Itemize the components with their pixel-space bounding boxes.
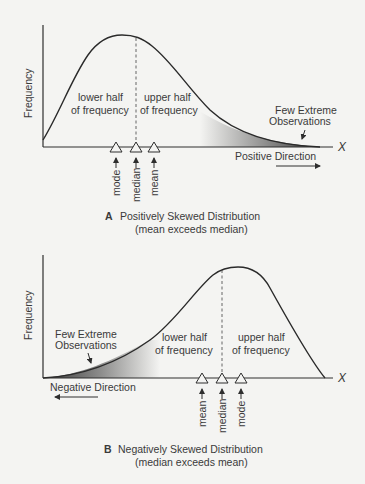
marker-median-b: median — [216, 373, 228, 433]
upper-half-label-b: upper half — [238, 331, 285, 343]
tail-label-b-2: Observations — [55, 339, 117, 351]
caption-letter-a: A — [105, 210, 113, 222]
lower-half-label-b-2: of frequency — [155, 344, 214, 356]
svg-text:mode: mode — [235, 401, 247, 427]
tail-pointer-a — [302, 130, 305, 139]
marker-median-a: median — [130, 142, 142, 202]
svg-text:mode: mode — [110, 170, 122, 196]
upper-half-label-a: upper half — [144, 91, 191, 103]
direction-label-a: Positive Direction — [235, 150, 316, 162]
skewed-distributions-figure: Frequency X lower half of frequency uppe… — [0, 0, 365, 484]
lower-half-label-a: lower half — [78, 91, 123, 103]
svg-text:mean: mean — [148, 170, 160, 196]
marker-mean-b: mean — [196, 373, 208, 427]
caption-subtitle-b: (median exceeds mean) — [135, 456, 248, 468]
y-axis-label-b: Frequency — [22, 290, 34, 340]
tail-pointer-b — [88, 353, 91, 363]
caption-title-a: Positively Skewed Distribution — [120, 210, 260, 222]
y-axis-label-a: Frequency — [22, 68, 34, 118]
caption-title-b: Negatively Skewed Distribution — [118, 443, 263, 455]
x-axis-label-a: X — [337, 140, 347, 154]
lower-half-label-b: lower half — [162, 331, 207, 343]
lower-half-label-a-2: of frequency — [71, 104, 130, 116]
tail-label-a-2: Observations — [269, 115, 331, 127]
caption-subtitle-a: (mean exceeds median) — [135, 223, 248, 235]
upper-half-label-b-2: of frequency — [232, 344, 291, 356]
caption-letter-b: B — [104, 443, 112, 455]
svg-text:mean: mean — [196, 401, 208, 427]
diagram-a: Frequency X lower half of frequency uppe… — [22, 25, 347, 235]
diagram-b: Frequency X Few Extreme Observations low… — [22, 255, 347, 468]
distribution-curve-b — [43, 267, 325, 378]
marker-mode-a: mode — [110, 142, 122, 196]
x-axis-label-b: X — [337, 371, 347, 385]
direction-label-b: Negative Direction — [50, 381, 136, 393]
upper-half-label-a-2: of frequency — [140, 104, 199, 116]
marker-mode-b: mode — [235, 373, 247, 427]
svg-text:median: median — [216, 398, 228, 433]
marker-mean-a: mean — [148, 142, 160, 196]
svg-text:median: median — [130, 167, 142, 202]
